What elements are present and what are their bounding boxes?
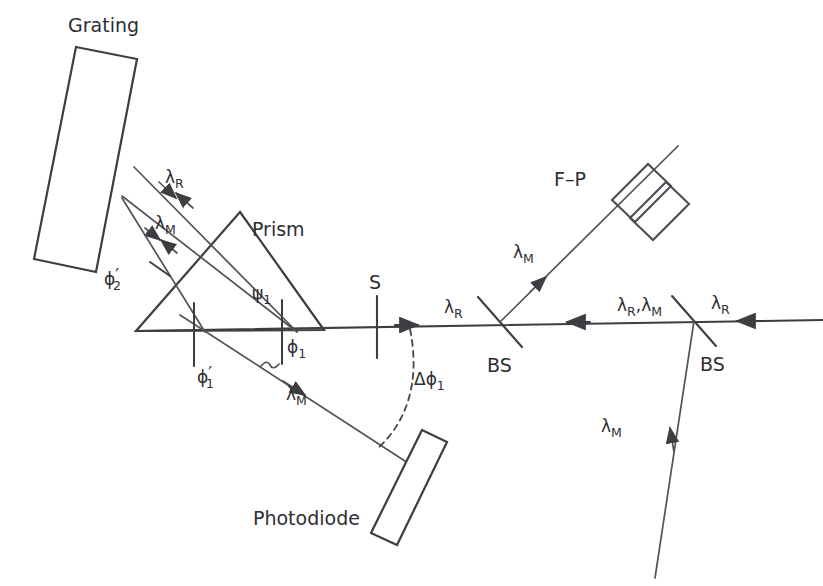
beam-lambdaM-input-arrow bbox=[670, 428, 674, 452]
delta-phi1-label: Δϕ1 bbox=[414, 369, 445, 393]
grating-label: Grating bbox=[68, 14, 139, 36]
prism-label: Prism bbox=[252, 218, 305, 240]
fabry-perot-component bbox=[612, 164, 689, 240]
lambda-R-bs-left-label: λR bbox=[444, 297, 463, 321]
lambda-R-input-label: λR bbox=[711, 293, 730, 317]
slit-label: S bbox=[369, 271, 381, 293]
figure-canvas: Grating Prism S BS BS F–P bbox=[0, 0, 823, 586]
bs-right-label: BS bbox=[700, 353, 725, 375]
beam-lambdaR-arrow-in bbox=[176, 193, 193, 208]
phi2-prime-tick bbox=[150, 262, 170, 276]
lambda-M-input-label: λM bbox=[601, 416, 622, 440]
fp-plate-2 bbox=[630, 182, 689, 240]
lambda-M-photodiode-label: λM bbox=[286, 384, 307, 408]
fp-plate-1 bbox=[612, 164, 671, 222]
lambda-R-grating-label: λR bbox=[165, 167, 184, 191]
lambda-M-fp-label: λM bbox=[513, 242, 534, 266]
beam-fp-path bbox=[500, 146, 678, 322]
optical-diagram: Grating Prism S BS BS F–P bbox=[0, 0, 823, 586]
lambda-M-grating-label: λM bbox=[155, 213, 176, 237]
grating-component bbox=[34, 47, 137, 272]
phi2-prime-label: ϕ′2 bbox=[104, 265, 121, 293]
beam-lambdaM-arrow-in bbox=[161, 240, 177, 253]
photodiode-label: Photodiode bbox=[253, 507, 360, 529]
bs-left-label: BS bbox=[487, 354, 512, 376]
lambda-RM-between-label: λR,λM bbox=[617, 295, 662, 319]
fp-label: F–P bbox=[554, 168, 586, 190]
beam-fp-arrow bbox=[530, 277, 546, 292]
delta-phi1-arc bbox=[378, 329, 414, 448]
grating-rect bbox=[34, 47, 137, 272]
beam-lambdaM-input bbox=[655, 321, 694, 578]
phi1-prime-label: ϕ′1 bbox=[197, 363, 214, 391]
beam-break-symbol bbox=[261, 362, 279, 368]
phi1-label: ϕ1 bbox=[287, 337, 306, 361]
